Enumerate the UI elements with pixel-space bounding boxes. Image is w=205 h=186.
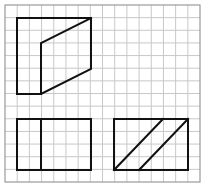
- projection-diagram: [0, 0, 205, 186]
